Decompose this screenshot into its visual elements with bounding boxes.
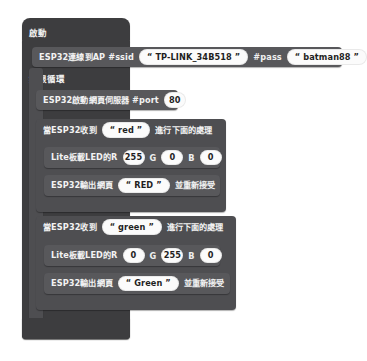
web-output-green-block[interactable]: ESP32輸出網頁 “ Green ” 並重新接受	[44, 273, 230, 294]
start-block-foot[interactable]	[22, 318, 130, 339]
wifi-ssid-field[interactable]: “ TP-LINK_34B518 ”	[139, 49, 248, 64]
web-server-start-label: ESP32啟動網頁伺服器 #port	[43, 96, 159, 104]
case-green-suffix-label: 進行下面的處理	[167, 223, 224, 231]
case-red-suffix-label: 進行下面的處理	[155, 126, 212, 134]
led-rgb-green-b-field[interactable]: 0	[200, 248, 222, 263]
web-output-red-label: ESP32輸出網頁	[51, 181, 113, 189]
led-rgb-red-g-field[interactable]: 0	[161, 150, 183, 165]
wifi-pass-label: #pass	[253, 52, 282, 62]
web-output-green-label: ESP32輸出網頁	[51, 279, 113, 287]
led-rgb-red-r-field[interactable]: 255	[123, 150, 145, 165]
led-rgb-red-g-label: G	[150, 153, 157, 163]
wifi-connect-label: ESP32連線到AP #ssid	[39, 53, 134, 61]
wifi-pass-field[interactable]: “ batman88 ”	[287, 49, 367, 64]
led-rgb-green-label: Lite板載LED的R	[51, 251, 118, 259]
web-output-red-value-field[interactable]: “ RED ”	[118, 178, 170, 193]
led-rgb-green-g-field[interactable]: 255	[161, 248, 183, 263]
case-green-header[interactable]: 當ESP32收到 “ green ” 進行下面的處理	[36, 216, 236, 238]
wifi-connect-block[interactable]: ESP32連線到AP #ssid “ TP-LINK_34B518 ” #pas…	[32, 47, 342, 67]
led-rgb-green-r-field[interactable]: 0	[123, 248, 145, 263]
led-rgb-red-b-label: B	[188, 153, 194, 163]
case-red-header[interactable]: 當ESP32收到 “ red ” 進行下面的處理	[36, 119, 226, 141]
led-rgb-green-g-label: G	[150, 251, 157, 261]
case-red-value-field[interactable]: “ red ”	[102, 122, 151, 137]
case-red-when-label: 當ESP32收到	[43, 126, 97, 134]
web-output-green-suffix-label: 並重新接受	[184, 279, 225, 287]
web-output-red-suffix-label: 並重新接受	[175, 181, 216, 189]
web-server-start-block[interactable]: ESP32啟動網頁伺服器 #port 80	[36, 90, 178, 110]
web-output-green-value-field[interactable]: “ Green ”	[118, 276, 179, 291]
led-rgb-red-b-field[interactable]: 0	[200, 150, 222, 165]
led-rgb-red-block[interactable]: Lite板載LED的R 255 G 0 B 0	[44, 147, 220, 168]
led-rgb-red-label: Lite板載LED的R	[51, 153, 118, 161]
web-output-red-block[interactable]: ESP32輸出網頁 “ RED ” 並重新接受	[44, 175, 220, 196]
case-green-value-field[interactable]: “ green ”	[102, 219, 162, 234]
web-server-port-field[interactable]: 80	[164, 92, 186, 107]
led-rgb-green-block[interactable]: Lite板載LED的R 0 G 255 B 0	[44, 245, 220, 266]
start-block-label: 啟動	[29, 29, 47, 38]
led-rgb-green-b-label: B	[188, 251, 194, 261]
case-green-when-label: 當ESP32收到	[43, 223, 97, 231]
